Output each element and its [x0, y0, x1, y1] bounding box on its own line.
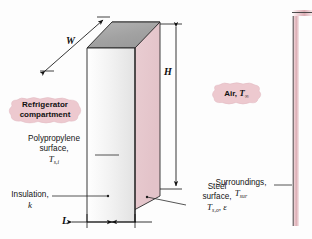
dimension-label-width: W — [66, 35, 75, 46]
surroundings-subscript: sur — [240, 193, 247, 199]
dimension-height — [160, 24, 182, 189]
air-symbol: T∞ — [239, 88, 249, 98]
label-insulation: Insulation, k — [6, 190, 54, 211]
polypropylene-line-1: Polypropylene — [28, 134, 80, 143]
surroundings-wall — [292, 10, 312, 226]
refrigerator-line-1: Refrigerator — [22, 100, 68, 109]
callout-refrigerator-compartment: Refrigerator compartment — [6, 96, 84, 124]
figure-canvas: Refrigerator compartment Air, T∞ Polypro… — [0, 0, 312, 239]
air-subscript: ∞ — [245, 93, 249, 99]
callout-air: Air, T∞ — [210, 82, 263, 105]
surroundings-symbol: Tsur — [235, 188, 247, 198]
surroundings-line-1: Surroundings, — [216, 178, 267, 187]
polypropylene-subscript: s,i — [54, 159, 59, 165]
callout-air-label: Air, T∞ — [224, 88, 249, 99]
dimension-label-thickness: L — [62, 215, 68, 226]
label-polypropylene-surface: Polypropylene surface, Ts,i — [14, 134, 94, 165]
refrigerator-line-2: compartment — [20, 110, 71, 119]
air-text: Air, — [224, 89, 237, 98]
steel-symbol: Ts,o — [207, 202, 219, 212]
label-surroundings: Surroundings, Tsur — [206, 178, 276, 199]
steel-comma: , — [219, 203, 221, 212]
leader-steel — [147, 197, 186, 205]
insulation-line-1: Insulation, — [11, 190, 48, 199]
polypropylene-symbol: Ts,i — [49, 154, 59, 164]
insulation-symbol: k — [28, 200, 32, 210]
callout-refrigerator-label: Refrigerator compartment — [20, 100, 71, 120]
dimension-label-height: H — [164, 66, 172, 77]
steel-emissivity: ε — [223, 202, 227, 212]
polypropylene-line-2: surface, — [39, 144, 68, 153]
steel-subscript: s,o — [212, 207, 219, 213]
